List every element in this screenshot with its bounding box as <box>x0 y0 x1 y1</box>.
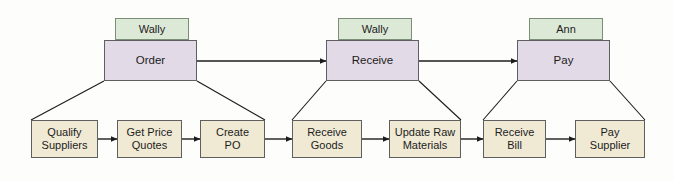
task-receive-goods: Receive Goods <box>292 120 362 158</box>
role-pay-label: Ann <box>553 23 579 36</box>
task-receive-bill: Receive Bill <box>483 120 546 158</box>
task-create-po: Create PO <box>200 120 265 158</box>
role-order: Wally <box>115 18 189 40</box>
process-receive-label: Receive <box>349 54 397 68</box>
role-pay: Ann <box>529 18 603 40</box>
role-receive-label: Wally <box>359 23 391 36</box>
task-pay-supplier-label: Pay Supplier <box>587 126 633 152</box>
task-receive-bill-label: Receive Bill <box>492 126 538 152</box>
task-update-raw-materials-label: Update Raw Materials <box>392 126 459 152</box>
task-pay-supplier: Pay Supplier <box>575 120 645 158</box>
process-order: Order <box>104 40 197 81</box>
decomp-pay-right <box>610 81 645 120</box>
process-decomposition-diagram: WallyWallyAnn OrderReceivePay Qualify Su… <box>0 0 674 181</box>
task-qualify-suppliers: Qualify Suppliers <box>31 120 98 158</box>
process-pay: Pay <box>517 40 610 81</box>
task-update-raw-materials: Update Raw Materials <box>389 120 461 158</box>
decomp-order-right <box>197 81 265 120</box>
decomp-order-left <box>31 81 104 120</box>
role-order-label: Wally <box>136 23 168 36</box>
task-create-po-label: Create PO <box>213 126 252 152</box>
decomp-pay-left <box>483 81 517 120</box>
task-receive-goods-label: Receive Goods <box>304 126 350 152</box>
decomp-receive-right <box>419 81 461 120</box>
task-get-price-quotes-label: Get Price Quotes <box>124 126 176 152</box>
task-get-price-quotes: Get Price Quotes <box>117 120 182 158</box>
process-order-label: Order <box>133 54 168 68</box>
decomp-receive-left <box>292 81 326 120</box>
decomposition-lines-group <box>31 81 645 120</box>
role-receive: Wally <box>338 18 412 40</box>
process-pay-label: Pay <box>551 54 577 68</box>
process-receive: Receive <box>326 40 419 81</box>
task-qualify-suppliers-label: Qualify Suppliers <box>39 126 91 152</box>
